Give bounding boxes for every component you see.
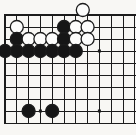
white-stone (69, 21, 82, 34)
white-stone (81, 21, 94, 34)
black-stone (58, 33, 71, 46)
black-stone (58, 21, 71, 34)
white-stone (69, 33, 82, 46)
paper-background (0, 0, 136, 135)
black-stone (22, 105, 35, 118)
star-point (98, 110, 101, 113)
white-stone (76, 4, 89, 17)
black-stone (10, 45, 23, 58)
black-stone (10, 33, 23, 46)
black-stone (34, 45, 47, 58)
go-board-diagram (0, 0, 136, 135)
star-point (98, 50, 101, 53)
white-stone (46, 33, 59, 46)
white-stone (34, 33, 47, 46)
white-stone (10, 21, 23, 34)
black-stone (46, 45, 59, 58)
black-stone (69, 45, 82, 58)
go-board-grid[interactable] (0, 0, 136, 135)
white-stone (81, 33, 94, 46)
white-stone (22, 33, 35, 46)
black-stone (46, 105, 59, 118)
star-point (39, 110, 42, 113)
black-stone (22, 45, 35, 58)
black-stone (58, 45, 71, 58)
